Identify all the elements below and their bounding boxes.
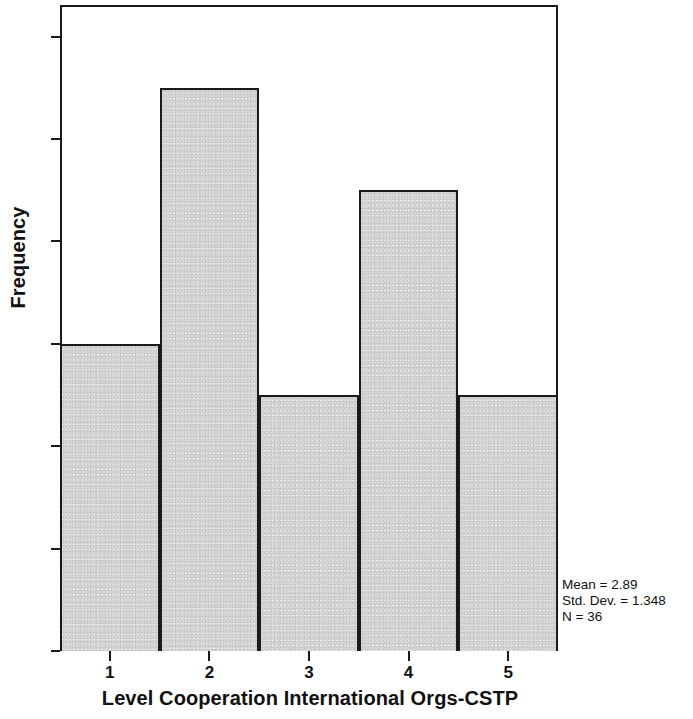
y-tick-mark: [51, 650, 60, 652]
statistics-annotation: Mean = 2.89 Std. Dev. = 1.348 N = 36: [562, 577, 666, 625]
x-tick-label: 3: [289, 663, 329, 683]
x-tick-mark: [507, 651, 509, 661]
x-tick-label: 2: [189, 663, 229, 683]
y-tick-mark: [51, 240, 60, 242]
x-axis-title: Level Cooperation International Orgs-CST…: [0, 687, 620, 710]
x-tick-label: 5: [488, 663, 528, 683]
stat-line-mean: Mean = 2.89: [562, 577, 666, 593]
x-tick-label: 1: [90, 663, 130, 683]
bars-layer: [60, 5, 558, 651]
y-tick-mark: [51, 548, 60, 550]
x-tick-mark: [109, 651, 111, 661]
x-tick-mark: [408, 651, 410, 661]
stat-line-n: N = 36: [562, 609, 666, 625]
x-tick-mark: [208, 651, 210, 661]
histogram-bar: [259, 395, 359, 651]
y-tick-mark: [51, 445, 60, 447]
y-axis-title: Frequency: [7, 178, 30, 338]
histogram-bar: [60, 344, 160, 651]
histogram-bar: [160, 88, 260, 651]
histogram-bar: [458, 395, 558, 651]
x-tick-label: 4: [389, 663, 429, 683]
x-tick-mark: [308, 651, 310, 661]
stat-line-std-dev: Std. Dev. = 1.348: [562, 593, 666, 609]
y-tick-mark: [51, 36, 60, 38]
histogram-figure: 024681012 12345 Frequency Level Cooperat…: [0, 0, 693, 719]
y-tick-mark: [51, 138, 60, 140]
y-tick-mark: [51, 343, 60, 345]
histogram-bar: [359, 190, 459, 651]
